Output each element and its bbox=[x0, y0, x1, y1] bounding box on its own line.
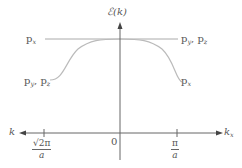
tick-right-label: π a bbox=[171, 139, 179, 160]
k-axis-left-label: k bbox=[9, 127, 15, 137]
tick-left-label: √2π a bbox=[32, 139, 51, 160]
k-axis-right-arrow-icon bbox=[216, 131, 223, 136]
curved-band-line bbox=[50, 39, 182, 82]
curved-band-right-label: px bbox=[181, 76, 191, 88]
curved-band-left-label: py, pz bbox=[24, 76, 50, 88]
energy-axis-arrow-icon bbox=[118, 22, 123, 29]
k-axis-left-arrow-icon bbox=[19, 131, 26, 136]
flat-band-right-label: py, pz bbox=[181, 34, 207, 46]
origin-label: 0 bbox=[111, 137, 117, 147]
energy-axis-label: ℰ(k) bbox=[107, 7, 127, 17]
k-axis-right-label: kx bbox=[224, 127, 234, 139]
flat-band-left-label: px bbox=[26, 34, 36, 46]
